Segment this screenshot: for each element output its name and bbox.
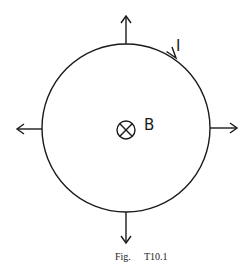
force-arrow-up-icon <box>121 16 131 44</box>
force-arrow-down-icon <box>121 212 131 243</box>
caption-number: T10.1 <box>144 251 168 262</box>
field-label: B <box>144 116 154 134</box>
into-page-cross-icon <box>117 121 135 139</box>
current-direction-arrow-icon <box>167 47 177 58</box>
current-label: I <box>176 37 180 55</box>
current-loop-circle <box>42 44 210 212</box>
caption-prefix: Fig. <box>115 251 131 262</box>
force-arrow-right-icon <box>210 123 237 133</box>
current-loop-diagram: I B Fig. T10.1 <box>0 0 246 268</box>
force-arrow-left-icon <box>17 124 42 134</box>
